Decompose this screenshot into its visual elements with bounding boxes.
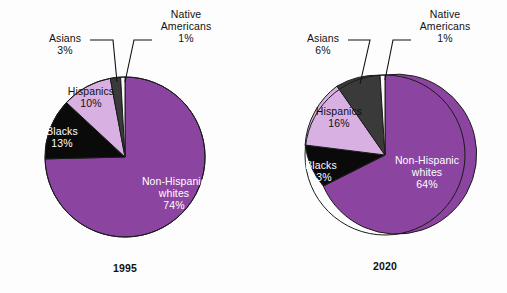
label-native-americans-2020-name2: Americans xyxy=(409,21,481,33)
label-asians-2020-value: 6% xyxy=(297,45,349,57)
label-blacks-2020: Blacks 13% xyxy=(293,160,349,184)
label-non-hispanic-whites-2020-name1: Non-Hispanic xyxy=(386,155,468,167)
label-hispanics-1995-name: Hispanics xyxy=(55,86,127,98)
label-asians-2020-name: Asians xyxy=(297,33,349,45)
label-asians-2020: Asians 6% xyxy=(297,33,349,57)
label-blacks-1995-value: 13% xyxy=(34,138,90,150)
label-native-americans-2020: Native Americans 1% xyxy=(409,9,481,44)
label-non-hispanic-whites-1995-value: 74% xyxy=(134,200,214,212)
label-non-hispanic-whites-1995: Non-Hispanic whites 74% xyxy=(134,176,214,211)
label-blacks-2020-value: 13% xyxy=(293,172,349,184)
leader-line-asians-1995 xyxy=(90,40,117,82)
label-non-hispanic-whites-2020-name2: whites xyxy=(386,167,468,179)
label-asians-1995-value: 3% xyxy=(39,45,91,57)
label-hispanics-2020-value: 16% xyxy=(303,118,375,130)
label-native-americans-1995-name1: Native xyxy=(150,9,222,21)
label-asians-1995: Asians 3% xyxy=(39,33,91,57)
label-native-americans-1995-name2: Americans xyxy=(150,21,222,33)
label-native-americans-1995-value: 1% xyxy=(150,33,222,45)
pie-chart-figure: Asians 3% Native Americans 1% Hispanics … xyxy=(0,0,507,293)
label-asians-1995-name: Asians xyxy=(39,33,91,45)
label-blacks-2020-name: Blacks xyxy=(293,160,349,172)
label-hispanics-2020-name: Hispanics xyxy=(303,106,375,118)
label-non-hispanic-whites-2020: Non-Hispanic whites 64% xyxy=(386,155,468,190)
leader-line-native-americans-1995 xyxy=(125,40,152,82)
label-native-americans-1995: Native Americans 1% xyxy=(150,9,222,44)
chart-year-2020: 2020 xyxy=(360,260,410,272)
label-non-hispanic-whites-1995-name2: whites xyxy=(134,188,214,200)
label-native-americans-2020-value: 1% xyxy=(409,33,481,45)
label-non-hispanic-whites-2020-value: 64% xyxy=(386,179,468,191)
label-native-americans-2020-name1: Native xyxy=(409,9,481,21)
label-blacks-1995: Blacks 13% xyxy=(34,126,90,150)
label-hispanics-1995-value: 10% xyxy=(55,98,127,110)
label-hispanics-1995: Hispanics 10% xyxy=(55,86,127,110)
label-hispanics-2020: Hispanics 16% xyxy=(303,106,375,130)
chart-year-1995: 1995 xyxy=(100,262,150,274)
label-blacks-1995-name: Blacks xyxy=(34,126,90,138)
label-non-hispanic-whites-1995-name1: Non-Hispanic xyxy=(134,176,214,188)
